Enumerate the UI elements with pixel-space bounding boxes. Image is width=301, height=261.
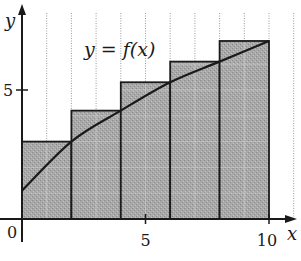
- x-axis-label: x: [287, 223, 297, 244]
- x-axis-arrow-icon: [285, 215, 297, 223]
- y-axis-label: y: [4, 10, 16, 31]
- x-tick-label-0: 0: [7, 223, 17, 242]
- x-tick-label-10: 10: [257, 231, 277, 250]
- y-axis-arrow-icon: [18, 4, 26, 15]
- x-tick-label-5: 5: [140, 231, 150, 250]
- y-tick-label-5: 5: [3, 81, 13, 100]
- curve-label: y = f(x): [83, 38, 155, 60]
- riemann-rectangles: [22, 41, 269, 219]
- riemann-sum-chart: yx05105 y = f(x): [0, 0, 301, 261]
